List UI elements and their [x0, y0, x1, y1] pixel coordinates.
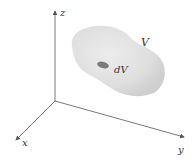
- y-axis: [55, 101, 184, 137]
- volume-diagram: z x y V dV: [0, 0, 195, 160]
- y-axis-label: y: [177, 144, 184, 155]
- x-axis: [16, 101, 55, 140]
- diagram-canvas: z x y V dV: [0, 0, 195, 160]
- x-axis-label: x: [22, 137, 28, 148]
- z-axis-label: z: [59, 7, 66, 18]
- region-v-shape: [72, 26, 165, 96]
- region-v-label: V: [141, 36, 150, 49]
- dv-label: dV: [114, 64, 129, 75]
